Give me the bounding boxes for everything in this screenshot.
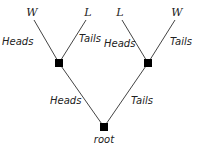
tree-edges <box>34 20 175 127</box>
edge-label-left-left: Heads <box>2 36 33 47</box>
edge-label-root-left: Heads <box>50 95 81 106</box>
leaf-3-label: L <box>115 6 123 19</box>
edge-label-right-right: Tails <box>170 36 192 47</box>
edge-label-root-right: Tails <box>131 95 153 106</box>
leaf-1-label: W <box>26 6 39 19</box>
leaf-2-label: L <box>83 6 91 19</box>
game-tree-diagram: W L L W Heads Tails Heads Tails Heads Ta… <box>0 0 200 153</box>
edge-label-left-right: Tails <box>79 33 101 44</box>
leaf-4-label: W <box>171 6 184 19</box>
edge-left-left <box>34 20 59 63</box>
node-left <box>55 59 63 67</box>
edge-label-right-left: Heads <box>104 38 135 49</box>
root-label: root <box>94 134 115 145</box>
node-root <box>100 123 108 131</box>
node-right <box>144 59 152 67</box>
